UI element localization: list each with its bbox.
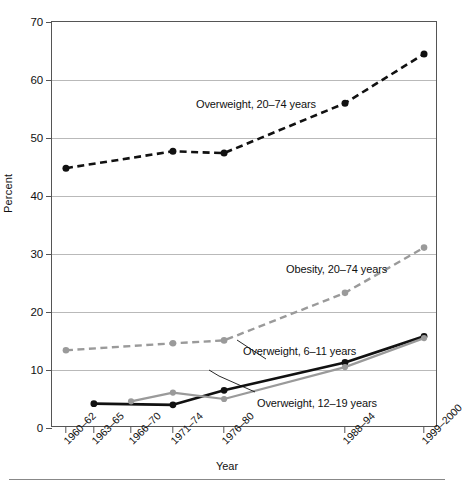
data-point-marker: [341, 100, 348, 107]
data-point-marker: [421, 244, 428, 251]
x-axis-title: Year: [0, 460, 454, 472]
data-point-marker: [221, 396, 227, 402]
data-point-marker: [342, 364, 348, 370]
data-point-marker: [221, 387, 228, 394]
y-tick-label: 10: [31, 364, 43, 376]
data-point-marker: [90, 400, 97, 407]
y-tick-label: 40: [31, 190, 43, 202]
y-tick-label: 60: [31, 74, 43, 86]
y-tick-label: 20: [31, 306, 43, 318]
series-annotation-label: Overweight, 12–19 years: [257, 397, 377, 409]
data-point-marker: [170, 340, 177, 347]
footer-rule: [9, 479, 445, 480]
y-tick-label: 70: [31, 16, 43, 28]
data-point-marker: [421, 335, 427, 341]
data-series-group: [52, 22, 438, 428]
y-tick-mark: [46, 428, 52, 429]
data-point-marker: [221, 150, 228, 157]
series-line: [66, 54, 424, 168]
series-overweight-20-74-years: [62, 50, 427, 171]
series-annotation-label: Obesity, 20–74 years: [286, 263, 387, 275]
data-point-marker: [221, 337, 228, 344]
data-point-marker: [170, 390, 176, 396]
y-tick-label: 30: [31, 248, 43, 260]
data-point-marker: [421, 50, 428, 57]
data-point-marker: [342, 290, 349, 297]
y-tick-label: 50: [31, 132, 43, 144]
annotation-leader-line: [209, 370, 219, 376]
series-annotation-label: Overweight, 20–74 years: [196, 98, 316, 110]
y-axis-title: Percent: [2, 174, 14, 213]
data-point-marker: [170, 401, 177, 408]
series-annotation-label: Overweight, 6–11 years: [243, 345, 356, 357]
data-point-marker: [62, 165, 69, 172]
plot-area: 010203040506070: [51, 21, 437, 427]
data-point-marker: [128, 398, 134, 404]
data-point-marker: [169, 148, 176, 155]
series-obesity-20-74-years: [63, 244, 428, 353]
y-tick-label: 0: [37, 422, 43, 434]
data-point-marker: [63, 347, 70, 354]
